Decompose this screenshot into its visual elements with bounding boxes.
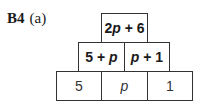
question-part: (a) bbox=[30, 10, 47, 26]
pyramid-middle-cell-2: p + 1 bbox=[124, 42, 170, 72]
pyramid-top-cell: 2p + 6 bbox=[101, 13, 148, 43]
pyramid-middle-cell-1: 5 + p bbox=[78, 42, 125, 72]
cell-text: 1 bbox=[166, 78, 174, 94]
cell-text: p + 1 bbox=[131, 49, 163, 65]
question-label: B4(a) bbox=[7, 10, 46, 27]
cell-text: 2p + 6 bbox=[104, 20, 144, 36]
cell-text: 5 + p bbox=[85, 49, 117, 65]
cell-text: 5 bbox=[75, 78, 83, 94]
pyramid-bottom-cell-3: 1 bbox=[147, 71, 193, 101]
pyramid-bottom-cell-1: 5 bbox=[56, 71, 102, 101]
question-number: B4 bbox=[7, 10, 25, 26]
cell-text: p bbox=[121, 78, 129, 94]
pyramid-bottom-cell-2: p bbox=[101, 71, 148, 101]
